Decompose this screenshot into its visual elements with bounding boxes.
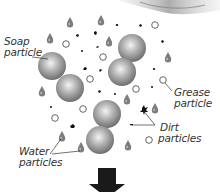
down-arrow-icon — [89, 168, 125, 192]
background-shadow — [118, 0, 220, 14]
diagram-canvas: Soap particle Grease particle Dirt parti… — [0, 0, 220, 192]
grease-particle-label: Grease particle — [174, 87, 212, 109]
grease-label-line2: particle — [174, 98, 212, 109]
water-particles-label: Water particles — [19, 146, 62, 168]
grease-leader-line — [165, 83, 172, 91]
soap-label-line2: particle — [4, 47, 42, 58]
soap-particle-2 — [108, 34, 146, 86]
soap-particle-3 — [86, 100, 121, 154]
dirt-label-line2: particles — [158, 133, 201, 144]
dirt-particles-label: Dirt particles — [158, 122, 201, 144]
water-label-line2: particles — [19, 157, 62, 168]
soap-particle-label: Soap particle — [4, 36, 42, 58]
